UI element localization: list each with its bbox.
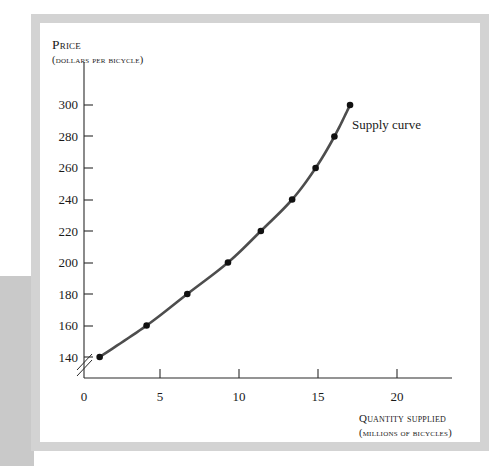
data-point [312,165,319,172]
supply-curve-line [100,105,350,357]
data-point [143,322,150,329]
data-point [96,354,103,361]
data-point [331,133,338,140]
y-axis-ticks [84,105,93,357]
data-point [347,102,354,109]
data-point [225,259,232,266]
data-point [258,228,265,235]
data-point [184,291,191,298]
figure-page: Price (dollars per bicycle) Quantity sup… [0,0,500,466]
data-point [289,196,296,203]
supply-curve-markers [96,102,353,361]
chart-plot-area [0,0,500,466]
x-axis-ticks [160,369,397,378]
